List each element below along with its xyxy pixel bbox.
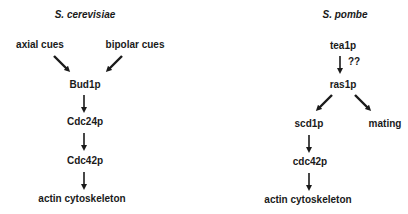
node-cdc42p: Cdc42p [67,156,103,166]
node-actin-cytoskeleton-pombe: actin cytoskeleton [264,195,351,205]
node-tea1p: tea1p [330,41,356,51]
node-axial-cues: axial cues [16,40,64,50]
node-bud1p: Bud1p [69,80,100,90]
right-panel-title: S. pombe [322,10,367,20]
node-ras1p: ras1p [330,80,357,90]
arrow-axial-to-bud1p [54,56,68,70]
node-scd1p: scd1p [295,119,324,129]
arrow-bipolar-to-bud1p [108,56,122,70]
uncertain-link-label: ?? [348,57,360,67]
arrow-ras1p-to-scd1p [318,95,332,109]
node-bipolar-cues: bipolar cues [106,40,165,50]
left-panel-title: S. cerevisiae [55,10,116,20]
node-cdc42p-pombe: cdc42p [293,157,327,167]
arrows-layer [0,0,408,214]
arrow-ras1p-to-mating [355,95,369,109]
node-actin-cytoskeleton: actin cytoskeleton [38,194,125,204]
node-mating: mating [369,119,402,129]
node-cdc24p: Cdc24p [67,117,103,127]
